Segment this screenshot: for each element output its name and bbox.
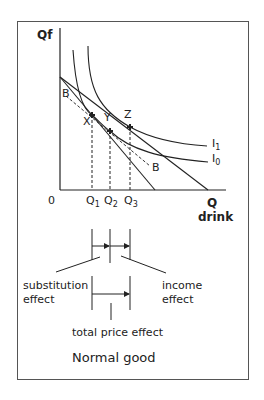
income-effect-label-2: effect <box>162 293 193 306</box>
curve-label-i1: I1 <box>212 137 220 152</box>
origin-label: 0 <box>48 194 55 207</box>
total-price-effect-label: total price effect <box>72 326 163 339</box>
x-axis-label-drink: drink <box>198 210 233 224</box>
y-axis-label: Qf <box>37 28 52 42</box>
x-axis-label-q: Q <box>207 196 217 210</box>
tick-q3: Q3 <box>124 194 138 209</box>
tick-q1: Q1 <box>86 194 100 209</box>
income-effect-label-1: income <box>162 279 202 292</box>
substitution-leader <box>56 257 100 272</box>
budget-line-original <box>60 77 155 190</box>
point-y-label: Y <box>104 111 111 124</box>
tick-q2: Q2 <box>104 194 118 209</box>
point-z-label: Z <box>124 108 132 121</box>
substitution-effect-label-2: effect <box>23 293 54 306</box>
income-leader <box>121 256 166 273</box>
indifference-curve-i0 <box>73 50 208 162</box>
point-x-label: X <box>83 115 91 128</box>
budget-label-right: B <box>152 161 160 174</box>
curve-label-i0: I0 <box>212 152 220 167</box>
substitution-effect-label-1: substitution <box>23 279 88 292</box>
caption: Normal good <box>72 350 156 365</box>
budget-line-new <box>60 77 208 190</box>
budget-label-left: B <box>62 87 70 100</box>
